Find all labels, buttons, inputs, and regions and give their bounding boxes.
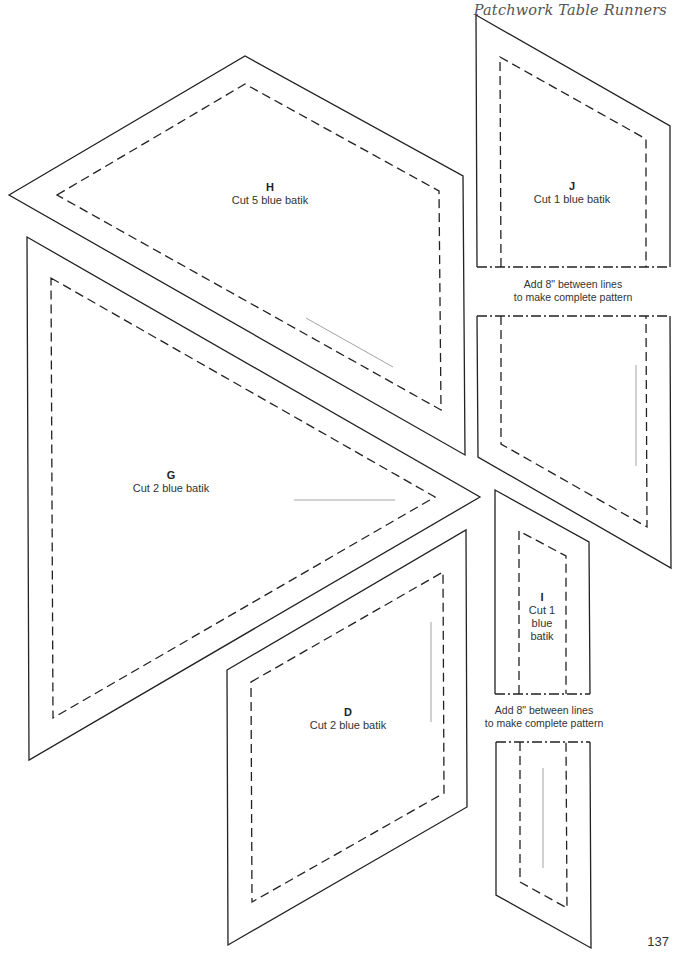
piece-j-top-cut-line [476, 15, 670, 267]
piece-d-letter: D [293, 706, 403, 719]
piece-g-seam-line [51, 278, 435, 718]
i-extension-note-line2: to make complete pattern [464, 717, 624, 730]
page-number: 137 [647, 934, 669, 949]
pattern-sheet [0, 0, 675, 953]
piece-g-letter: G [116, 469, 226, 482]
piece-i-bottom-seam-line [520, 742, 567, 908]
piece-h-letter: H [215, 181, 325, 194]
page-header-title: Patchwork Table Runners [474, 2, 667, 18]
piece-h-cut-line [9, 56, 465, 455]
piece-j-label: J Cut 1 blue batik [517, 180, 627, 206]
i-extension-note: Add 8" between lines to make complete pa… [464, 704, 624, 730]
piece-j-bottom-cut-line [477, 316, 671, 568]
piece-i-instruction-line2: blue [519, 617, 565, 630]
i-extension-note-line1: Add 8" between lines [464, 704, 624, 717]
piece-j-bottom-seam-line [501, 316, 647, 527]
piece-h-label: H Cut 5 blue batik [215, 181, 325, 207]
piece-i-bottom-cut-line [496, 742, 591, 948]
j-extension-note-line2: to make complete pattern [493, 291, 653, 304]
piece-i-instruction-line3: batik [519, 630, 565, 643]
j-extension-note-line1: Add 8" between lines [493, 278, 653, 291]
piece-i-label: I Cut 1 blue batik [519, 591, 565, 643]
j-extension-note: Add 8" between lines to make complete pa… [493, 278, 653, 304]
piece-g-instruction: Cut 2 blue batik [133, 482, 209, 494]
piece-j-letter: J [517, 180, 627, 193]
piece-h-grainline [306, 318, 393, 367]
piece-d-cut-line [227, 530, 467, 945]
piece-j-instruction: Cut 1 blue batik [534, 193, 610, 205]
piece-g-cut-line [27, 237, 480, 760]
piece-i-instruction-line1: Cut 1 [519, 604, 565, 617]
piece-d-instruction: Cut 2 blue batik [310, 719, 386, 731]
piece-g-label: G Cut 2 blue batik [116, 469, 226, 495]
piece-i-letter: I [519, 591, 565, 604]
piece-j-top-seam-line [500, 57, 646, 267]
piece-d-seam-line [251, 572, 444, 902]
piece-d-label: D Cut 2 blue batik [293, 706, 403, 732]
piece-h-instruction: Cut 5 blue batik [232, 194, 308, 206]
